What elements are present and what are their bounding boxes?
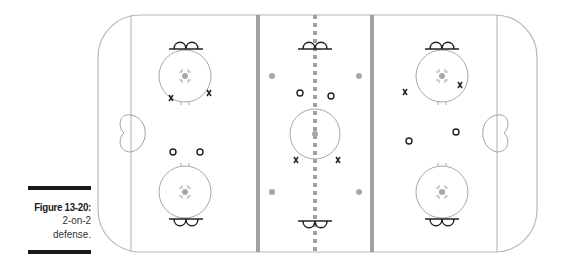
net-icon — [298, 42, 332, 49]
attacker-o-icon — [406, 138, 412, 144]
neutral-dot — [356, 189, 362, 195]
attacker-o-icon — [297, 90, 303, 96]
defender-x-icon — [458, 82, 462, 88]
attacker-o-icon — [170, 149, 176, 155]
neutral-dot — [269, 189, 275, 195]
defender-x-icon — [336, 157, 340, 163]
defender-x-icon — [294, 157, 298, 163]
faceoff-dot — [182, 189, 188, 195]
defender-x-icon — [207, 90, 211, 96]
blue-line-right — [370, 15, 374, 252]
hockey-rink-diagram — [0, 0, 566, 267]
goal-crease-right — [483, 115, 508, 152]
attacker-o-icon — [328, 93, 334, 99]
net-icon — [169, 219, 203, 226]
net-icon — [425, 42, 459, 49]
faceoff-dot — [182, 73, 188, 79]
attacker-o-icon — [453, 129, 459, 135]
net-icon — [425, 219, 459, 226]
blue-line-left — [256, 15, 260, 252]
defender-x-icon — [169, 95, 173, 101]
center-faceoff-dot — [312, 131, 318, 137]
attacker-o-icon — [197, 149, 203, 155]
defender-x-icon — [403, 89, 407, 95]
net-icon — [169, 42, 203, 49]
faceoff-dot — [439, 189, 445, 195]
neutral-dot — [356, 73, 362, 79]
neutral-dot — [269, 73, 275, 79]
faceoff-dot — [439, 73, 445, 79]
goal-crease-left — [120, 115, 145, 152]
